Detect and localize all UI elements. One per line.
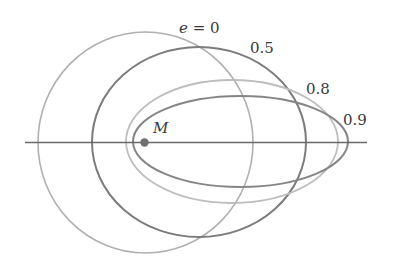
- orbit-label-e09: 0.9: [343, 111, 367, 129]
- orbit-label-e0-rest: = 0: [188, 19, 220, 37]
- focus-label: M: [152, 119, 169, 137]
- orbit-label-e08: 0.8: [306, 80, 330, 98]
- focus-point-m: [140, 138, 148, 146]
- orbit-eccentricity-diagram: M e = 0 0.5 0.8 0.9: [0, 0, 396, 260]
- orbit-label-e0: e = 0: [179, 19, 220, 37]
- orbit-e-09: [133, 96, 348, 187]
- orbit-label-e05: 0.5: [250, 39, 274, 57]
